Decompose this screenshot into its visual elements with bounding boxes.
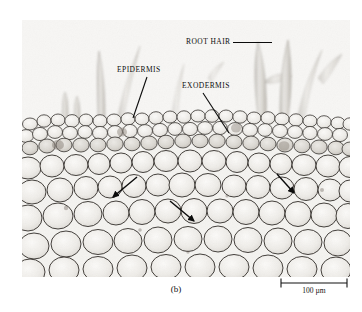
- label-epidermis: EPIDERMIS: [117, 66, 161, 74]
- root-cross-section-micrograph: [22, 20, 350, 277]
- label-exodermis: EXODERMIS: [182, 82, 230, 90]
- label-root-hair: ROOT HAIR: [186, 38, 231, 46]
- figure-panel: ROOT HAIR EPIDERMIS EXODERMIS 100 µm (b): [0, 0, 362, 312]
- figure-caption: (b): [150, 284, 202, 294]
- micrograph-image: [22, 20, 350, 277]
- scale-bar-label: 100 µm: [279, 287, 349, 295]
- scale-bar: 100 µm: [279, 278, 349, 298]
